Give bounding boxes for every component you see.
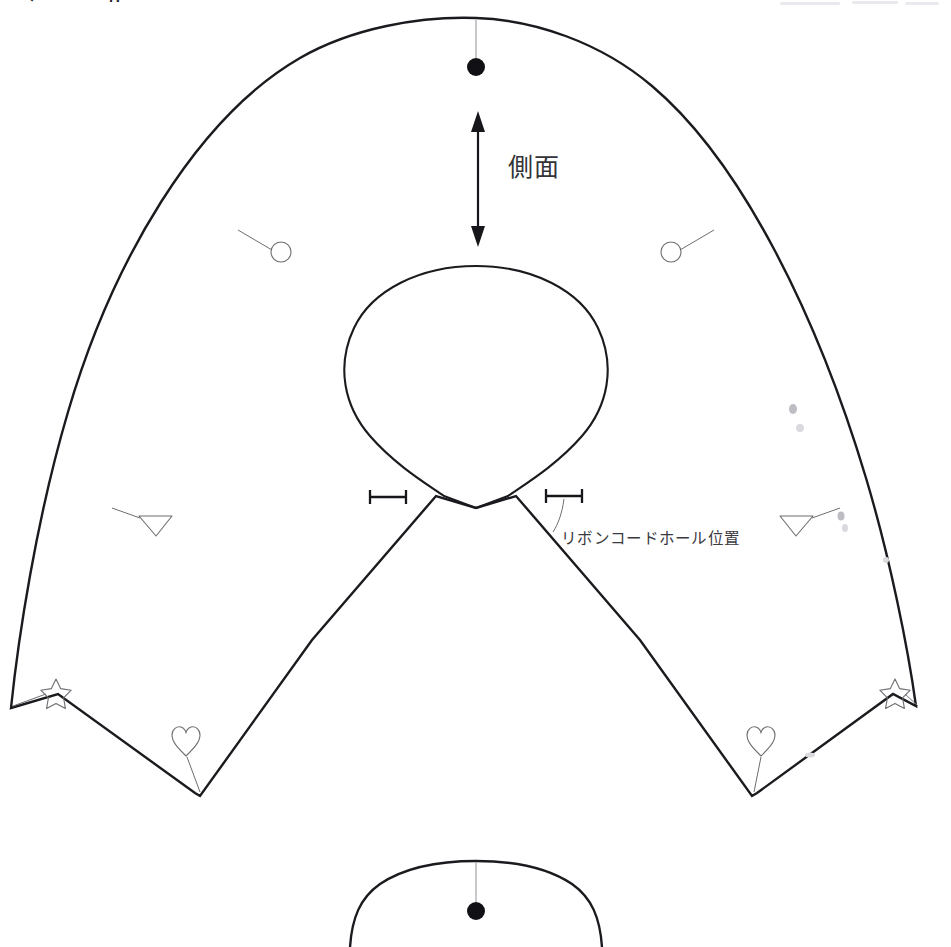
side-panel-label: 側面 bbox=[508, 155, 559, 180]
scan-artifact bbox=[838, 512, 845, 521]
triangle-notch-right-group bbox=[780, 508, 840, 536]
circle-notch-right-group bbox=[661, 230, 714, 262]
ribbon-cord-hole-label: リボンコードホール位置 bbox=[561, 532, 740, 548]
arrow-head-up bbox=[471, 111, 485, 132]
inner-keyhole-opening bbox=[344, 266, 607, 508]
grain-point-dot-bottom bbox=[467, 902, 485, 920]
grain-point-dot bbox=[467, 58, 485, 76]
top-grain-dot-group bbox=[467, 20, 485, 76]
heart-notch-right-leader bbox=[754, 757, 761, 792]
cord-hole-tick-right bbox=[546, 489, 582, 532]
circle-notch-right-leader bbox=[680, 230, 714, 250]
arrow-head-down bbox=[471, 226, 485, 247]
heart-notch-left-leader bbox=[187, 757, 200, 792]
triangle-notch-left-leader bbox=[112, 508, 140, 518]
triangle-notch-right-leader bbox=[812, 508, 840, 518]
pattern-canvas: ショール ダウンロード型紙 bbox=[0, 0, 951, 947]
triangle-notch-right-icon bbox=[780, 516, 813, 536]
triangle-notch-left-icon bbox=[139, 516, 172, 536]
bottom-grain-dot-group bbox=[467, 862, 485, 920]
heart-notch-right-icon bbox=[747, 727, 775, 756]
triangle-notch-left-group bbox=[112, 508, 172, 536]
scan-artifact bbox=[842, 524, 848, 532]
circle-notch-left-group bbox=[238, 230, 291, 262]
cord-hole-tick-left bbox=[370, 490, 406, 504]
circle-notch-right-icon bbox=[661, 242, 681, 262]
main-panel-outline bbox=[11, 18, 916, 796]
scan-artifact bbox=[796, 424, 804, 432]
circle-notch-left-icon bbox=[271, 242, 291, 262]
header-smudge-group bbox=[780, 1, 939, 5]
heart-notch-left-icon bbox=[172, 727, 200, 756]
circle-notch-left-leader bbox=[238, 230, 272, 250]
scan-artifact bbox=[789, 404, 797, 414]
scan-artifact-group bbox=[789, 404, 889, 758]
scan-artifact bbox=[805, 753, 815, 758]
heart-notch-left-group bbox=[172, 727, 200, 792]
ribbon-label-leader bbox=[553, 499, 564, 532]
pattern-drawing bbox=[0, 0, 951, 947]
side-height-dimension-arrow bbox=[471, 111, 485, 247]
scan-artifact bbox=[883, 557, 889, 563]
